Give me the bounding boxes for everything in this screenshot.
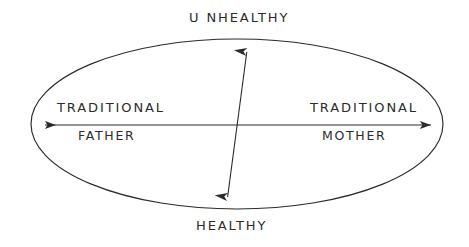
label-father: FATHER (78, 130, 135, 143)
label-mother: MOTHER (322, 130, 386, 143)
label-traditional-mother-primary: TRADITIONAL (310, 101, 418, 114)
label-traditional-father-primary: TRADITIONAL (57, 101, 165, 114)
label-healthy: HEALTHY (196, 219, 267, 232)
label-unhealthy: U NHEALTHY (189, 11, 289, 24)
diagram-canvas: U NHEALTHY HEALTHY TRADITIONAL FATHER TR… (0, 0, 469, 247)
diagram-figure (0, 0, 469, 247)
